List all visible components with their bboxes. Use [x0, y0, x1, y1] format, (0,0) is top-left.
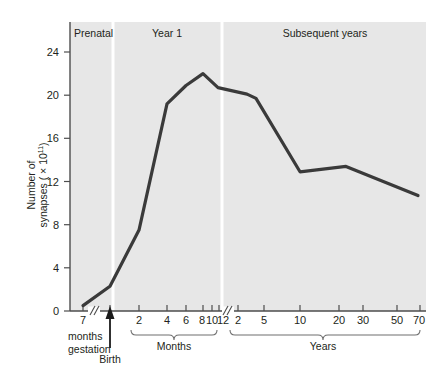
birth-marker: Birth	[99, 306, 121, 365]
x-tick-label-5-years: 5	[261, 314, 267, 326]
x-tick-label-2-months: 2	[136, 314, 142, 326]
section-label-year1: Year 1	[152, 27, 182, 39]
chart-canvas: Prenatal Year 1 Subsequent years 0 4 8 1…	[0, 0, 440, 371]
x-tick-label-7-gestation: 7	[80, 314, 86, 326]
x-tick-label-6-months: 6	[183, 314, 189, 326]
x-tick-label-10-years: 10	[294, 314, 306, 326]
plot-background	[70, 22, 426, 311]
y-tick-label-20: 20	[47, 89, 59, 101]
y-axis-title-suffix: )	[37, 142, 49, 146]
section-label-prenatal: Prenatal	[74, 27, 113, 39]
x-tick-label-4-months: 4	[164, 314, 170, 326]
section-divider-prenatal-year1	[112, 22, 115, 311]
y-axis-title: Number of synapses ( × 1011)	[25, 142, 49, 227]
x-tick-label-20-years: 20	[333, 314, 345, 326]
gestation-caption: months gestation	[68, 330, 111, 355]
y-axis-title-line2: synapses ( × 1011)	[37, 142, 49, 227]
years-brace	[230, 330, 420, 340]
x-tick-label-30-years: 30	[357, 314, 369, 326]
months-brace	[131, 330, 217, 340]
x-axis-tick-labels: 7 2 4 6 8 10 12 2 5 10 20 30 50 70	[80, 314, 425, 326]
years-brace-label: Years	[310, 340, 336, 352]
x-tick-label-12-months: 12	[217, 314, 229, 326]
section-label-subsequent-years: Subsequent years	[283, 27, 368, 39]
y-tick-label-4: 4	[53, 262, 59, 274]
synapse-density-chart: Prenatal Year 1 Subsequent years 0 4 8 1…	[0, 0, 440, 371]
y-tick-label-24: 24	[47, 46, 59, 58]
x-tick-label-2-years: 2	[235, 314, 241, 326]
section-divider-year1-subsequent	[221, 22, 224, 311]
x-tick-label-70-years: 70	[413, 314, 425, 326]
y-axis-ticks	[64, 52, 70, 311]
y-axis-title-line1: Number of	[25, 160, 37, 209]
y-tick-label-8: 8	[53, 219, 59, 231]
y-axis-title-exponent: 11	[37, 146, 44, 153]
birth-label: Birth	[99, 353, 121, 365]
months-brace-label: Months	[157, 340, 191, 352]
axis-break-mark-1	[88, 306, 100, 316]
x-tick-label-8-months: 8	[199, 314, 205, 326]
months-brace-group: Months	[131, 330, 217, 352]
y-tick-label-0: 0	[53, 305, 59, 317]
y-axis-title-prefix: synapses ( × 10	[37, 153, 49, 228]
years-brace-group: Years	[230, 330, 420, 352]
x-tick-label-50-years: 50	[391, 314, 403, 326]
gestation-caption-line1: months	[68, 330, 102, 342]
